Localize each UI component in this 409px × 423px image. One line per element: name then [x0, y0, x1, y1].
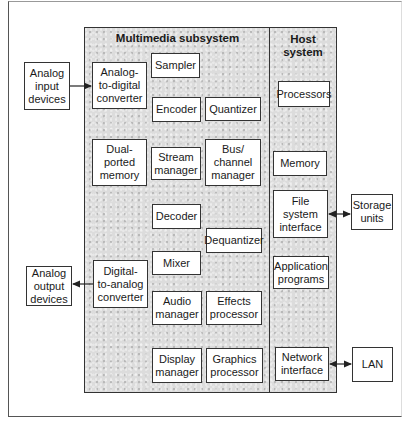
connection-arrows	[0, 0, 409, 423]
